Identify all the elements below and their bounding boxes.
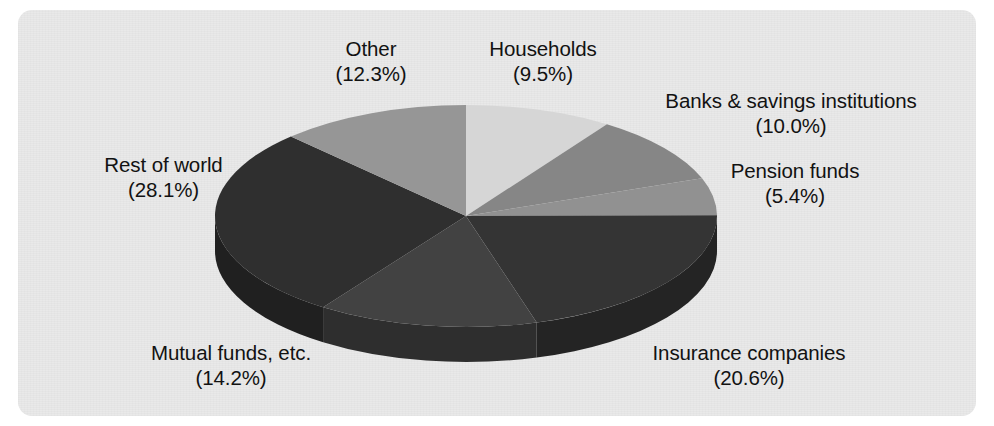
slice-label-pension-name: Pension funds	[680, 158, 910, 183]
slice-label-rest-of-world: Rest of world (28.1%)	[56, 152, 271, 202]
slice-label-mutual-funds: Mutual funds, etc. (14.2%)	[96, 340, 366, 390]
slice-label-mutual-funds-name: Mutual funds, etc.	[96, 340, 366, 365]
slice-label-households-name: Households	[448, 36, 638, 61]
slice-label-banks-percent: (10.0%)	[616, 113, 966, 138]
slice-label-insurance-percent: (20.6%)	[604, 365, 894, 390]
slice-label-other-percent: (12.3%)	[296, 61, 446, 86]
slice-label-pension-funds: Pension funds (5.4%)	[680, 158, 910, 208]
slice-label-households-percent: (9.5%)	[448, 61, 638, 86]
slice-label-banks-and-savings-institutions: Banks & savings institutions (10.0%)	[616, 88, 966, 138]
slice-label-banks-name: Banks & savings institutions	[616, 88, 966, 113]
slice-label-pension-percent: (5.4%)	[680, 183, 910, 208]
slice-label-mutual-funds-percent: (14.2%)	[96, 365, 366, 390]
slice-label-rest-of-world-name: Rest of world	[56, 152, 271, 177]
slice-label-insurance-name: Insurance companies	[604, 340, 894, 365]
slice-label-households: Households (9.5%)	[448, 36, 638, 86]
slice-label-rest-of-world-percent: (28.1%)	[56, 177, 271, 202]
pie-top-slices	[215, 105, 717, 327]
pie-chart-figure: Other (12.3%) Households (9.5%) Banks & …	[0, 0, 994, 426]
slice-label-insurance-companies: Insurance companies (20.6%)	[604, 340, 894, 390]
slice-label-other-name: Other	[296, 36, 446, 61]
slice-label-other: Other (12.3%)	[296, 36, 446, 86]
